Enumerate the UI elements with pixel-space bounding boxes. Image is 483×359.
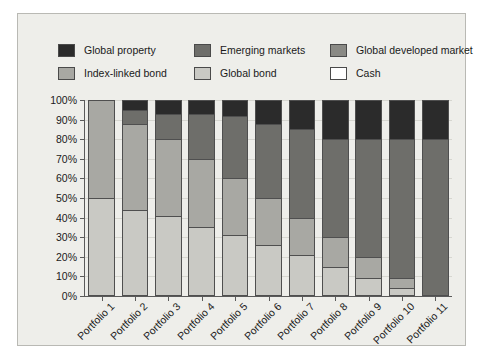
- y-axis-tick-label: 90%: [56, 114, 77, 126]
- bar-segment[interactable]: [222, 235, 249, 296]
- stacked-bar[interactable]: [122, 100, 149, 296]
- bar-segment[interactable]: [322, 267, 349, 296]
- legend-swatch-cash: [330, 67, 347, 80]
- bar-segment[interactable]: [322, 139, 349, 237]
- x-axis-tick: [102, 296, 103, 301]
- bar-segment[interactable]: [255, 124, 282, 198]
- x-axis-tick: [402, 296, 403, 301]
- x-axis-tick: [335, 296, 336, 301]
- y-axis-tick-label: 20%: [56, 251, 77, 263]
- x-axis-tick: [302, 296, 303, 301]
- y-axis-tick: [80, 296, 85, 297]
- legend-item-index-linked-bond: Index-linked bond: [58, 63, 167, 83]
- legend-item-emerging-markets: Emerging markets: [194, 40, 305, 60]
- bar-segment[interactable]: [122, 100, 149, 110]
- x-axis-tick: [269, 296, 270, 301]
- bar-segment[interactable]: [289, 255, 316, 296]
- bar-segment[interactable]: [88, 100, 115, 198]
- y-axis-tick: [80, 218, 85, 219]
- bar-segment[interactable]: [255, 100, 282, 124]
- stacked-bar[interactable]: [88, 100, 115, 296]
- chart-figure: Global property Emerging markets Global …: [0, 0, 483, 359]
- bar-segment[interactable]: [255, 245, 282, 296]
- bar-segment[interactable]: [155, 139, 182, 215]
- stacked-bar[interactable]: [322, 100, 349, 296]
- bar-segment[interactable]: [122, 124, 149, 210]
- bar-segment[interactable]: [188, 100, 215, 114]
- bar-segment[interactable]: [322, 100, 349, 139]
- chart-legend: Global property Emerging markets Global …: [58, 40, 458, 86]
- bar-segment[interactable]: [355, 257, 382, 279]
- legend-swatch-global-bond: [194, 67, 211, 80]
- x-axis-tick: [202, 296, 203, 301]
- stacked-bar[interactable]: [188, 100, 215, 296]
- stacked-bar[interactable]: [289, 100, 316, 296]
- bar-segment[interactable]: [389, 288, 416, 296]
- stacked-bar[interactable]: [389, 100, 416, 296]
- x-axis-tick: [435, 296, 436, 301]
- legend-label-global-developed-market: Global developed market: [356, 44, 473, 57]
- legend-row-bottom: Index-linked bond Global bond Cash: [58, 63, 458, 83]
- chart-plate: Global property Emerging markets Global …: [17, 13, 466, 346]
- y-axis-tick: [80, 276, 85, 277]
- legend-swatch-index-linked-bond: [58, 67, 75, 80]
- bar-segment[interactable]: [355, 139, 382, 257]
- legend-label-emerging-markets: Emerging markets: [220, 44, 305, 57]
- y-axis-tick-label: 80%: [56, 133, 77, 145]
- bar-segment[interactable]: [422, 139, 449, 296]
- bar-segment[interactable]: [289, 100, 316, 129]
- bar-segment[interactable]: [255, 198, 282, 245]
- x-axis-tick: [135, 296, 136, 301]
- bar-segment[interactable]: [422, 100, 449, 139]
- legend-item-global-property: Global property: [58, 40, 156, 60]
- legend-label-cash: Cash: [356, 67, 381, 80]
- bar-segment[interactable]: [222, 178, 249, 235]
- y-axis-tick: [80, 100, 85, 101]
- y-axis-tick-label: 30%: [56, 231, 77, 243]
- legend-item-global-bond: Global bond: [194, 63, 277, 83]
- bar-segment[interactable]: [155, 216, 182, 296]
- bar-segment[interactable]: [122, 210, 149, 296]
- stacked-bar[interactable]: [255, 100, 282, 296]
- legend-swatch-global-developed-market: [330, 44, 347, 57]
- legend-item-global-developed-market: Global developed market: [330, 40, 473, 60]
- bar-segment[interactable]: [155, 100, 182, 114]
- bar-segment[interactable]: [188, 227, 215, 296]
- legend-swatch-global-property: [58, 44, 75, 57]
- bar-segment[interactable]: [155, 114, 182, 139]
- bar-segment[interactable]: [389, 278, 416, 288]
- bar-segment[interactable]: [188, 114, 215, 159]
- legend-label-global-bond: Global bond: [220, 67, 277, 80]
- bar-segment[interactable]: [188, 159, 215, 228]
- bar-segment[interactable]: [355, 278, 382, 296]
- bar-segment[interactable]: [389, 139, 416, 278]
- stacked-bar[interactable]: [422, 100, 449, 296]
- bar-segment[interactable]: [322, 237, 349, 266]
- bar-segment[interactable]: [289, 218, 316, 255]
- y-axis-tick: [80, 139, 85, 140]
- y-axis-tick: [80, 120, 85, 121]
- bar-segment[interactable]: [389, 100, 416, 139]
- stacked-bar[interactable]: [355, 100, 382, 296]
- x-axis-tick: [369, 296, 370, 301]
- legend-item-cash: Cash: [330, 63, 381, 83]
- legend-label-global-property: Global property: [84, 44, 156, 57]
- bar-segment[interactable]: [222, 116, 249, 179]
- bar-segment[interactable]: [88, 198, 115, 296]
- plot-area: 0%10%20%30%40%50%60%70%80%90%100% Portfo…: [84, 100, 452, 297]
- bar-segment[interactable]: [122, 110, 149, 124]
- y-axis-tick: [80, 178, 85, 179]
- stacked-bar[interactable]: [155, 100, 182, 296]
- y-axis-tick: [80, 237, 85, 238]
- y-axis-tick: [80, 159, 85, 160]
- bar-segment[interactable]: [289, 129, 316, 217]
- x-axis-tick: [235, 296, 236, 301]
- y-axis-tick-label: 100%: [50, 94, 77, 106]
- legend-swatch-emerging-markets: [194, 44, 211, 57]
- x-axis-tick: [168, 296, 169, 301]
- stacked-bar[interactable]: [222, 100, 249, 296]
- legend-label-index-linked-bond: Index-linked bond: [84, 67, 167, 80]
- y-axis-tick-label: 60%: [56, 172, 77, 184]
- bar-segment[interactable]: [355, 100, 382, 139]
- bar-segment[interactable]: [222, 100, 249, 116]
